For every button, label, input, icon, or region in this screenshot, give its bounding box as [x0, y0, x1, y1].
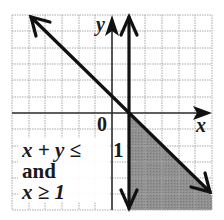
origin-label: 0	[97, 113, 107, 135]
caption-line3: x ≥ 1	[21, 180, 65, 204]
caption-line1-rhs: 1	[113, 138, 124, 162]
inequality-graph: y x 0 x + y ≤ 1 and x ≥ 1	[0, 0, 224, 220]
x-axis-label: x	[195, 114, 206, 136]
y-axis-label: y	[94, 13, 105, 36]
